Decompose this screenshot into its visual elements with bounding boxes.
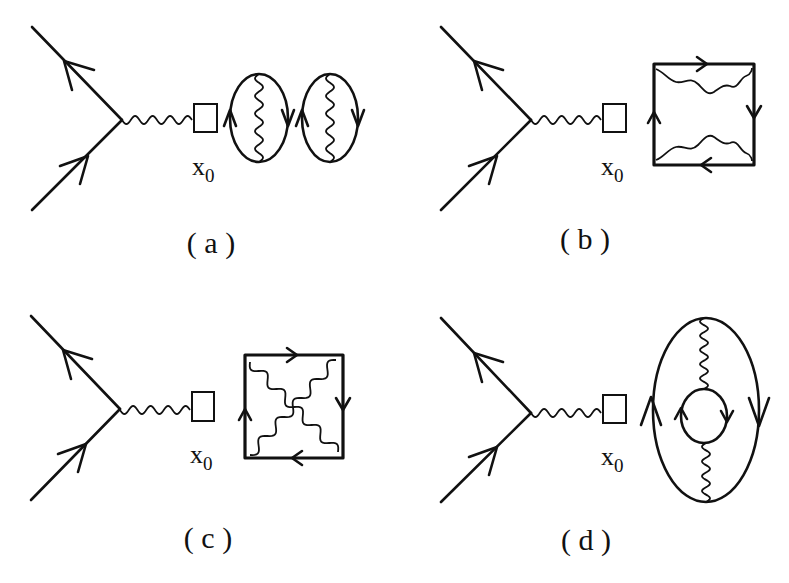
photon-line: [326, 74, 334, 162]
panel-a: x0 ( a ): [32, 27, 364, 260]
external-fermion-lines: [441, 318, 531, 502]
loop-square: [648, 57, 761, 172]
vertex-box: [603, 104, 626, 132]
vertex-box: [603, 395, 626, 423]
panel-label: ( d ): [561, 523, 611, 557]
photon-line: [702, 443, 710, 502]
panel-label: ( b ): [560, 222, 610, 256]
photon-line: [250, 360, 336, 455]
panel-label: ( a ): [187, 226, 235, 260]
external-fermion-lines: [32, 27, 122, 210]
vertex-label: x0: [192, 152, 215, 186]
external-fermion-lines: [441, 27, 531, 210]
photon-line: [122, 116, 192, 124]
arrow-icon: [469, 156, 497, 184]
vertex-box: [194, 104, 217, 132]
loop-ellipse-1: [224, 74, 294, 162]
loop-ellipse-2: [296, 74, 364, 162]
loop-inner-circle: [675, 389, 733, 443]
panel-label: ( c ): [184, 521, 232, 555]
vertex-label: x0: [190, 440, 213, 474]
photon-line: [255, 74, 263, 162]
vertex-label: x0: [601, 152, 624, 186]
panel-c: x0 ( c ): [31, 316, 350, 555]
photon-line: [700, 318, 708, 389]
external-fermion-lines: [31, 316, 120, 500]
arrow-icon: [60, 156, 88, 184]
photon-line: [531, 409, 601, 417]
photon-line: [120, 406, 190, 414]
panel-d: x0 ( d ): [441, 318, 769, 557]
feynman-diagrams-figure: x0 ( a ) x0: [0, 0, 789, 583]
photon-line: [656, 136, 752, 161]
photon-line: [531, 116, 601, 124]
vertex-label: x0: [601, 442, 624, 476]
photon-line: [250, 362, 338, 452]
arrow-up-icon: [641, 397, 661, 425]
panel-b: x0 ( b ): [441, 27, 761, 256]
loop-square: [239, 348, 350, 465]
vertex-box: [192, 392, 214, 421]
photon-line: [656, 68, 752, 93]
